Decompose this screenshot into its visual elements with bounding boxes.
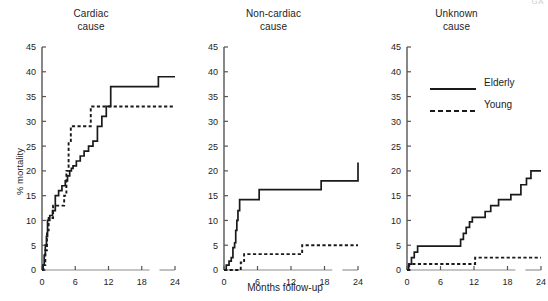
svg-text:10: 10 bbox=[26, 216, 36, 226]
svg-text:12: 12 bbox=[286, 277, 296, 287]
svg-text:18: 18 bbox=[319, 277, 329, 287]
figure-root: GA % mortality Months follow-up Cardiac … bbox=[0, 0, 548, 301]
svg-text:0: 0 bbox=[404, 277, 409, 287]
panel-non-cardiac: Non-cardiac cause 0510152025303540450612… bbox=[182, 0, 365, 301]
svg-text:0: 0 bbox=[39, 277, 44, 287]
svg-text:12: 12 bbox=[469, 277, 479, 287]
svg-text:12: 12 bbox=[103, 277, 113, 287]
svg-text:20: 20 bbox=[391, 166, 401, 176]
legend-entry-young: Young bbox=[428, 106, 478, 118]
svg-text:15: 15 bbox=[391, 191, 401, 201]
svg-text:35: 35 bbox=[208, 92, 218, 102]
svg-text:0: 0 bbox=[396, 265, 401, 275]
svg-text:18: 18 bbox=[502, 277, 512, 287]
svg-text:6: 6 bbox=[73, 277, 78, 287]
svg-text:25: 25 bbox=[208, 142, 218, 152]
plot-area-unknown: 05101520253035404506121824 bbox=[365, 0, 548, 301]
svg-text:6: 6 bbox=[255, 277, 260, 287]
svg-text:40: 40 bbox=[208, 67, 218, 77]
svg-text:35: 35 bbox=[391, 92, 401, 102]
svg-text:15: 15 bbox=[208, 191, 218, 201]
svg-text:30: 30 bbox=[26, 117, 36, 127]
svg-text:45: 45 bbox=[208, 42, 218, 52]
plot-area-cardiac: 05101520253035404506121824 bbox=[0, 0, 182, 301]
panel-cardiac: Cardiac cause 05101520253035404506121824 bbox=[0, 0, 182, 301]
svg-text:45: 45 bbox=[391, 42, 401, 52]
svg-text:6: 6 bbox=[438, 277, 443, 287]
svg-text:0: 0 bbox=[221, 277, 226, 287]
svg-text:30: 30 bbox=[208, 117, 218, 127]
svg-text:24: 24 bbox=[170, 277, 180, 287]
svg-text:25: 25 bbox=[391, 142, 401, 152]
svg-text:15: 15 bbox=[26, 191, 36, 201]
svg-text:0: 0 bbox=[213, 265, 218, 275]
svg-text:20: 20 bbox=[26, 166, 36, 176]
svg-text:0: 0 bbox=[31, 265, 36, 275]
legend-label-young: Young bbox=[484, 99, 512, 110]
svg-text:45: 45 bbox=[26, 42, 36, 52]
svg-text:18: 18 bbox=[137, 277, 147, 287]
svg-text:25: 25 bbox=[26, 142, 36, 152]
svg-text:40: 40 bbox=[391, 67, 401, 77]
legend-swatch-solid-icon bbox=[428, 84, 478, 94]
panel-unknown: Unknown cause 05101520253035404506121824… bbox=[365, 0, 548, 301]
svg-text:24: 24 bbox=[536, 277, 546, 287]
svg-text:30: 30 bbox=[391, 117, 401, 127]
series-elderly bbox=[407, 171, 541, 270]
legend-entry-elderly: Elderly bbox=[428, 84, 478, 96]
svg-text:5: 5 bbox=[31, 241, 36, 251]
svg-text:10: 10 bbox=[208, 216, 218, 226]
legend-label-elderly: Elderly bbox=[484, 77, 515, 88]
svg-text:5: 5 bbox=[213, 241, 218, 251]
svg-text:24: 24 bbox=[353, 277, 363, 287]
svg-text:5: 5 bbox=[396, 241, 401, 251]
svg-text:40: 40 bbox=[26, 67, 36, 77]
legend-swatch-dashed-icon bbox=[428, 106, 478, 116]
svg-text:35: 35 bbox=[26, 92, 36, 102]
plot-area-non-cardiac: 05101520253035404506121824 bbox=[182, 0, 365, 301]
svg-text:20: 20 bbox=[208, 166, 218, 176]
svg-text:10: 10 bbox=[391, 216, 401, 226]
